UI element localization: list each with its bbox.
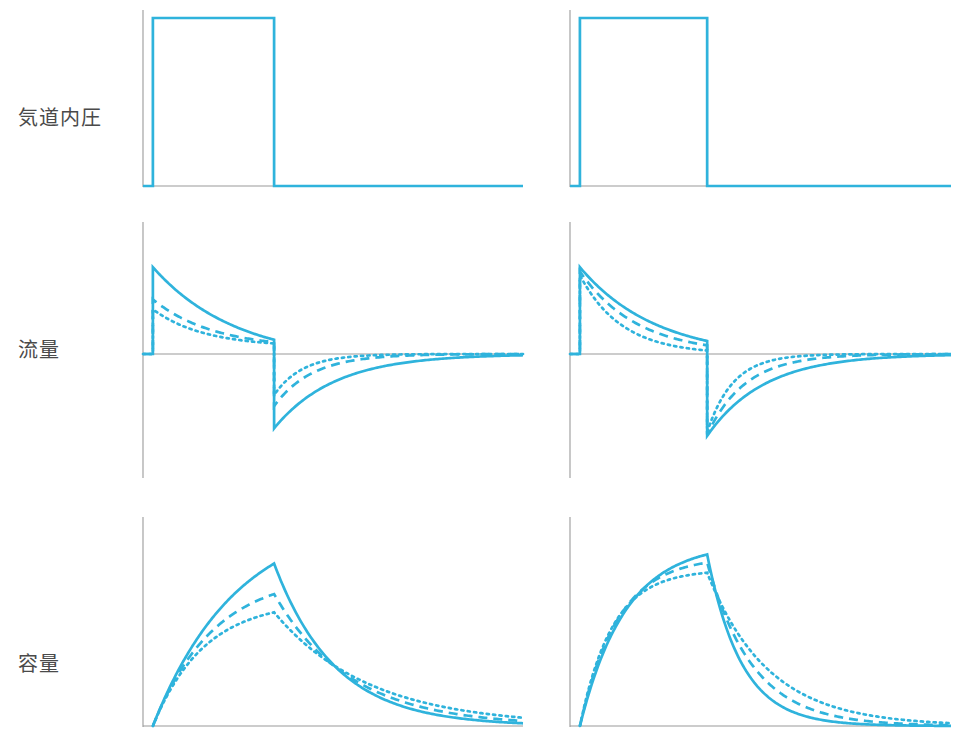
trace-pressure-right-solid (570, 18, 951, 186)
row-label-pressure: 気道内圧 (18, 102, 102, 131)
row-label-flow: 流量 (18, 334, 60, 363)
trace-volume-left-dashed (153, 594, 523, 726)
trace-pressure-left-solid (143, 18, 523, 186)
trace-volume-right-dashed (580, 563, 951, 726)
trace-volume-right-solid (580, 554, 951, 726)
ventilator-waveform-figure: 気道内圧 流量 容量 (0, 0, 961, 741)
traces-layer (143, 18, 951, 726)
row-label-volume: 容量 (18, 648, 60, 677)
waveform-plot-surface (0, 0, 961, 741)
trace-flow-left-dashed (143, 299, 523, 406)
trace-flow-right-solid (570, 267, 951, 436)
trace-flow-left-solid (143, 267, 523, 428)
trace-volume-left-solid (153, 564, 523, 726)
axes-layer (143, 10, 951, 727)
